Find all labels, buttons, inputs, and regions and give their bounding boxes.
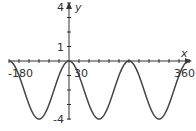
y-axis-label: y <box>74 1 82 14</box>
x-tick-label-max: 360 <box>174 67 195 80</box>
x-tick-label-min: -180 <box>8 67 33 80</box>
y-tick-label-max: 4 <box>57 1 64 14</box>
chart: x y 4 1 -4 -180 30 360 <box>0 0 196 131</box>
x-tick-label-30: 30 <box>74 67 88 80</box>
x-axis-label: x <box>180 47 188 60</box>
y-axis-arrow-icon <box>66 2 72 9</box>
y-tick-label-min: -4 <box>53 113 64 126</box>
y-tick-label-1: 1 <box>57 41 64 54</box>
function-curve <box>9 61 189 119</box>
